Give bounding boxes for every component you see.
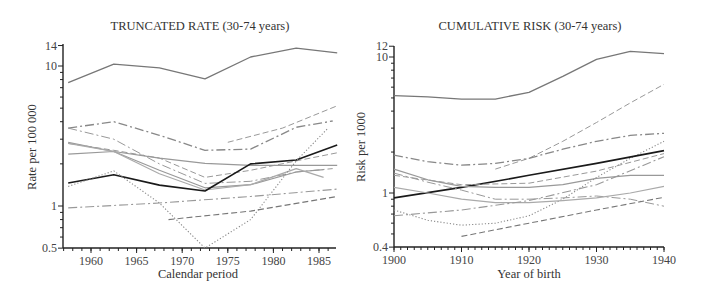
right-x-axis-label: Year of birth bbox=[497, 267, 561, 281]
y-tick-label: 1 bbox=[382, 186, 388, 200]
left-series-lines bbox=[68, 48, 337, 248]
series-line-dashdot-low bbox=[68, 189, 337, 208]
left-chart-title: TRUNCATED RATE (30-74 years) bbox=[111, 19, 290, 33]
y-tick-label: 10 bbox=[45, 59, 57, 73]
series-line-dashed-rising-light bbox=[495, 84, 664, 169]
x-tick-label: 1970 bbox=[170, 254, 194, 268]
y-tick-label: 1 bbox=[51, 199, 57, 213]
right-series-lines bbox=[394, 51, 664, 236]
left-panel: TRUNCATED RATE (30-74 years) Calendar pe… bbox=[25, 19, 337, 281]
x-tick-label: 1900 bbox=[382, 253, 406, 267]
left-y-axis-label: Rate per 100 000 bbox=[25, 104, 39, 190]
series-line-solid-flat bbox=[68, 152, 337, 166]
right-y-axis-label: Risk per 1000 bbox=[354, 112, 368, 182]
x-tick-label: 1985 bbox=[307, 254, 331, 268]
series-line-dashed-low bbox=[169, 197, 338, 220]
series-line-solid-declining-a bbox=[394, 169, 664, 187]
chart-canvas: TRUNCATED RATE (30-74 years) Calendar pe… bbox=[0, 0, 705, 300]
right-axes: 190019101920193019400.411012 bbox=[373, 39, 676, 267]
series-line-top-solid bbox=[68, 48, 337, 82]
series-line-dashed-low bbox=[462, 197, 665, 236]
x-tick-label: 1975 bbox=[216, 254, 240, 268]
series-line-dashdot-upper bbox=[68, 121, 333, 150]
left-x-axis-label: Calendar period bbox=[158, 267, 239, 281]
y-tick-label: 0.5 bbox=[42, 241, 57, 255]
y-tick-label: 0.4 bbox=[373, 240, 388, 254]
x-tick-label: 1940 bbox=[652, 253, 676, 267]
right-panel: CUMULATIVE RISK (30-74 years) Year of bi… bbox=[354, 19, 676, 281]
y-tick-label: 14 bbox=[45, 39, 57, 53]
x-tick-label: 1920 bbox=[517, 253, 541, 267]
series-line-top-solid bbox=[394, 51, 664, 99]
right-chart-title: CUMULATIVE RISK (30-74 years) bbox=[439, 19, 622, 33]
y-tick-label: 12 bbox=[376, 39, 388, 53]
x-tick-label: 1965 bbox=[125, 254, 149, 268]
x-tick-label: 1960 bbox=[79, 254, 103, 268]
series-line-dashdot-upper bbox=[394, 133, 664, 165]
series-line-solid-declining-b bbox=[68, 143, 323, 190]
x-tick-label: 1930 bbox=[585, 253, 609, 267]
series-line-dashdot-low bbox=[394, 157, 664, 216]
series-line-dashed-rising-light bbox=[228, 106, 337, 143]
x-tick-label: 1980 bbox=[261, 254, 285, 268]
series-line-dashdot-declining bbox=[394, 173, 664, 206]
x-tick-label: 1910 bbox=[450, 253, 474, 267]
